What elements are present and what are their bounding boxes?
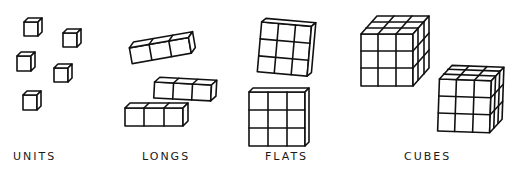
label-cubes: CUBES [404, 150, 451, 163]
long-rod [154, 77, 217, 101]
long-rod [125, 103, 188, 126]
label-units: UNITS [13, 150, 56, 163]
flat-square [249, 88, 309, 146]
longs-group [125, 32, 217, 126]
cubes-group [361, 16, 504, 133]
unit-cube [24, 18, 42, 36]
big-cube [438, 65, 504, 133]
long-rod [129, 32, 197, 64]
unit-cube [17, 52, 35, 71]
base-ten-blocks-illustration [0, 0, 524, 175]
unit-cube [54, 64, 72, 82]
flat-square [257, 18, 316, 77]
big-cube [361, 16, 429, 86]
label-flats: FLATS [265, 150, 308, 163]
units-group [17, 18, 81, 110]
unit-cube [23, 91, 41, 110]
flats-group [249, 18, 316, 146]
unit-cube [63, 29, 81, 47]
label-longs: LONGS [142, 150, 190, 163]
